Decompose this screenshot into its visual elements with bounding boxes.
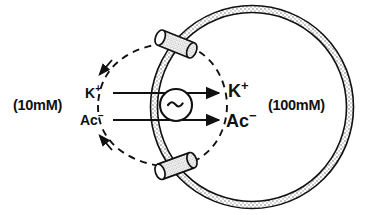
label-acetate-outside: Ac− <box>80 113 104 127</box>
label-acetate-inside-text: Ac <box>226 111 249 131</box>
label-acetate-inside: Ac− <box>226 112 257 130</box>
label-potassium-outside-text: K <box>85 85 95 101</box>
label-potassium-outside-charge: + <box>95 83 101 94</box>
label-acetate-outside-text: Ac <box>80 112 98 128</box>
label-potassium-inside-text: K <box>228 81 241 101</box>
label-concentration-outside: (10mM) <box>13 98 62 113</box>
label-potassium-inside: K+ <box>228 82 249 100</box>
label-potassium-inside-charge: + <box>241 78 249 93</box>
label-concentration-inside: (100mM) <box>268 98 325 113</box>
label-acetate-inside-charge: − <box>249 108 257 123</box>
label-potassium-outside: K+ <box>85 86 101 100</box>
label-acetate-outside-charge: − <box>98 110 104 121</box>
figure-root: (10mM) K+ Ac− K+ Ac− (100mM) <box>0 0 365 215</box>
channel-bottom <box>153 151 199 181</box>
transporter <box>160 89 192 121</box>
